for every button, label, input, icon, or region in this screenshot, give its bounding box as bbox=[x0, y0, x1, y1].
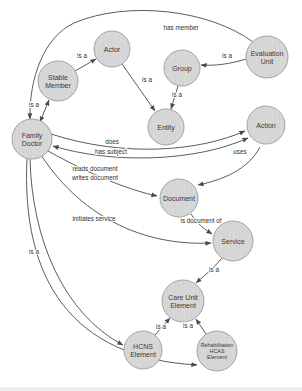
diagram-canvas: FamilyDoctorStableMemberActorGroupEvalua… bbox=[0, 0, 302, 391]
entity-label: Entity bbox=[157, 124, 175, 132]
edge-does bbox=[51, 131, 245, 149]
stable-member-label: StableMember bbox=[45, 74, 71, 89]
edge-label-is-a-actor-entity: is a bbox=[142, 76, 152, 83]
node-evaluation-unit: EvaluationUnit bbox=[246, 36, 288, 78]
document-label: Document bbox=[163, 195, 195, 202]
node-hcns-element: HCNSElement bbox=[124, 331, 162, 369]
node-entity: Entity bbox=[148, 109, 184, 145]
group-label: Group bbox=[172, 65, 192, 73]
edge-label-is-a-familydoctor-hcns: is a bbox=[29, 248, 39, 255]
edge-is-a-rehab-careunit bbox=[196, 319, 206, 334]
node-stable-member: StableMember bbox=[38, 61, 78, 101]
node-document: Document bbox=[160, 179, 198, 217]
edge-label-is-a-service-careunit: is a bbox=[209, 266, 219, 273]
diagram: FamilyDoctorStableMemberActorGroupEvalua… bbox=[0, 0, 302, 391]
node-action: Action bbox=[247, 106, 285, 144]
actor-label: Actor bbox=[104, 46, 121, 53]
family-doctor-label: FamilyDoctor bbox=[22, 132, 43, 147]
edge-label-is-document-of: is document of bbox=[181, 217, 222, 224]
edge-label-does: does bbox=[105, 138, 119, 145]
edge-label-has-subject: has subject bbox=[95, 148, 127, 156]
care-unit-element-label: Care UnitElement bbox=[168, 294, 198, 309]
edge-label-initiates-service: initiates service bbox=[72, 215, 116, 222]
node-rehabilitation-hcas-element: RehabilitationHCASElement bbox=[197, 331, 237, 371]
scan-artifact-strip bbox=[0, 387, 302, 391]
edge-label-reads-writes-document: reads documentwrites document bbox=[71, 165, 118, 181]
edge-is-a-familydoctor-hcns bbox=[30, 159, 123, 345]
edge-is-a-stablemember-actor bbox=[75, 59, 96, 71]
action-label: Action bbox=[256, 122, 276, 129]
edge-label-has-member: has member bbox=[164, 24, 199, 31]
edge-label-uses: uses bbox=[233, 148, 246, 155]
edge-uses bbox=[198, 147, 260, 185]
edge-has-subject bbox=[53, 138, 248, 158]
edge-is-a-evaluationunit-group bbox=[201, 59, 246, 65]
hcns-element-label: HCNSElement bbox=[130, 343, 156, 358]
edge-label-is-a-hcns-careunit: is a bbox=[156, 323, 166, 330]
edge-label-is-a-group-entity: is a bbox=[172, 91, 182, 98]
edge-label-is-a-familydoctor-stablemember: is a bbox=[29, 101, 39, 108]
edge-label-is-a-evaluationunit-group: is a bbox=[222, 52, 232, 59]
service-label: Service bbox=[221, 238, 244, 245]
edge-is-a-familydoctor-stablemember bbox=[40, 100, 49, 122]
node-care-unit-element: Care UnitElement bbox=[162, 280, 204, 322]
node-family-doctor: FamilyDoctor bbox=[12, 119, 52, 159]
edge-label-is-a-stablemember-actor: is a bbox=[77, 52, 87, 59]
node-actor: Actor bbox=[94, 31, 130, 67]
node-service: Service bbox=[213, 221, 253, 261]
node-group: Group bbox=[164, 50, 200, 86]
edge-label-is-a-rehab-careunit: is a bbox=[183, 322, 193, 329]
edge-is-a-actor-entity bbox=[122, 64, 155, 111]
